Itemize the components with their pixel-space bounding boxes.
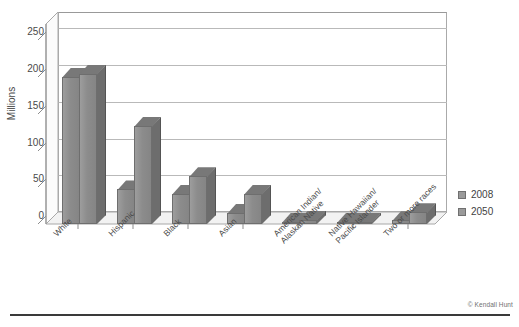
x-label-6: Native Hawaiian/ Pacific Islander xyxy=(327,187,386,246)
chart-page: 250 200 150 100 50 0 Millions WhiteHispa… xyxy=(0,0,519,327)
bottom-divider xyxy=(10,314,510,316)
x-label-1: White xyxy=(52,217,74,239)
x-label-4: Asian xyxy=(217,217,239,239)
x-label-3: Black xyxy=(162,217,183,238)
legend-label: 2008 xyxy=(471,190,493,200)
legend-item-2008[interactable]: 2008 xyxy=(458,190,493,200)
legend-swatch-icon xyxy=(458,208,466,216)
chart-legend: 2008 2050 xyxy=(458,190,493,224)
x-label-7: Two or more races xyxy=(382,182,438,238)
chart-plot-area: 250 200 150 100 50 0 Millions WhiteHispa… xyxy=(0,0,519,327)
x-label-2: Hispanic xyxy=(107,209,137,239)
x-axis-labels: WhiteHispanicBlackAsianAmerican Indian/ … xyxy=(0,0,519,327)
x-label-5: American Indian/ Alaskan Native xyxy=(272,187,331,246)
legend-swatch-icon xyxy=(458,191,466,199)
legend-label: 2050 xyxy=(471,207,493,217)
legend-item-2050[interactable]: 2050 xyxy=(458,207,493,217)
copyright-credit: © Kendall Hunt xyxy=(468,301,513,308)
